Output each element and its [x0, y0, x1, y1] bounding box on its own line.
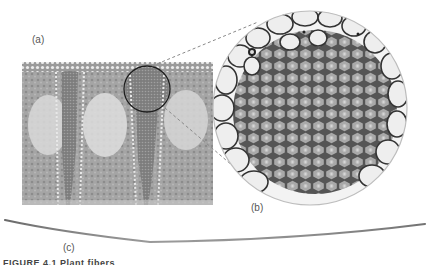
panel-label-a: (a): [32, 34, 44, 45]
panel-label-b: (b): [251, 202, 263, 213]
micrograph-figure: [0, 0, 433, 265]
panel-a-cross-section: [22, 62, 213, 205]
panel-b-magnified-bundle: [210, 8, 408, 205]
figure: [0, 0, 433, 265]
figure-caption: FIGURE 4.1 Plant fibers: [3, 258, 115, 265]
panel-label-c: (c): [63, 242, 75, 253]
panel-c-single-fiber: [5, 220, 425, 242]
